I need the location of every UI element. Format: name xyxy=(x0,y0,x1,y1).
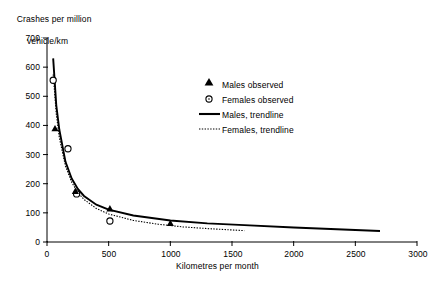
females-observed-points xyxy=(50,77,113,224)
chart-canvas xyxy=(0,0,429,283)
chart-figure: Crashes per million vehicle/km Kilometre… xyxy=(0,0,429,283)
axes xyxy=(43,38,417,246)
males-trendline-path xyxy=(53,58,380,231)
data-series-group xyxy=(50,58,380,231)
females-observed-marker xyxy=(107,218,113,224)
females-observed-marker xyxy=(65,146,71,152)
females-trendline-path xyxy=(53,74,244,230)
legend-open-circle-marker-center xyxy=(208,98,210,100)
legend-glyphs xyxy=(199,78,220,129)
legend-filled-triangle-marker xyxy=(205,78,214,86)
females-observed-marker xyxy=(50,77,56,83)
